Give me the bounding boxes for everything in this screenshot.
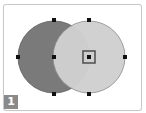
handle-right-center[interactable] xyxy=(87,55,91,59)
handle-left-top[interactable] xyxy=(52,18,56,22)
drawing-canvas[interactable] xyxy=(0,0,146,113)
handle-right-bottom[interactable] xyxy=(87,92,91,96)
step-badge: 1 xyxy=(4,95,18,109)
handle-left-bottom[interactable] xyxy=(52,92,56,96)
handle-right-top[interactable] xyxy=(87,18,91,22)
handle-right-right[interactable] xyxy=(123,55,127,59)
handle-left-center[interactable] xyxy=(52,55,56,59)
handle-left-left[interactable] xyxy=(16,55,20,59)
